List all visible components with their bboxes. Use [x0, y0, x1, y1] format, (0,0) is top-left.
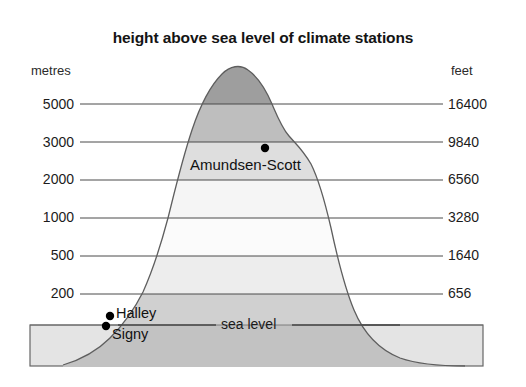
- band-1000-2000: [0, 180, 526, 218]
- band-500-1000: [0, 218, 526, 256]
- sea-level-label: sea level: [221, 316, 276, 332]
- band-3000-5000: [0, 104, 526, 142]
- band-200-500: [0, 256, 526, 294]
- station-marker-halley[interactable]: [106, 312, 114, 320]
- station-marker-amundsen-scott[interactable]: [261, 144, 269, 152]
- band-above-5000: [0, 0, 526, 104]
- station-label-halley: Halley: [116, 305, 156, 321]
- station-label-amundsen-scott: Amundsen-Scott: [190, 156, 301, 173]
- station-marker-signy[interactable]: [102, 322, 110, 330]
- station-label-signy: Signy: [112, 326, 148, 342]
- climate-stations-elevation-figure: height above sea level of climate statio…: [0, 0, 526, 387]
